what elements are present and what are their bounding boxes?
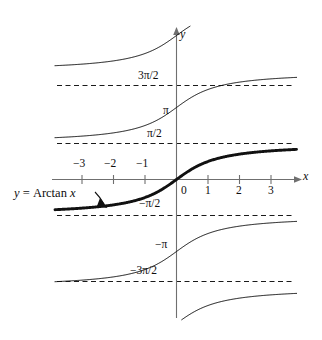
y-label-neg-pi: −π	[155, 239, 167, 251]
figure-background	[0, 0, 322, 340]
y-label-3pi-over-2: 3π/2	[138, 70, 159, 82]
x-tick-label-0: 0	[181, 185, 187, 197]
y-label-pi-over-2: π/2	[147, 128, 162, 140]
y-label-neg-pi-over-2: −π/2	[139, 198, 160, 210]
x-tick-label-neg1: −1	[136, 158, 148, 170]
x-tick-label-1: 1	[205, 185, 211, 197]
x-tick-label-2: 2	[236, 185, 242, 197]
arctan-annotation: y = Arctan x	[14, 187, 76, 200]
y-label-pi: π	[163, 105, 169, 117]
y-axis-label: y	[180, 28, 185, 40]
x-tick-label-3: 3	[268, 185, 274, 197]
annotation-equals: =	[23, 186, 30, 200]
y-label-neg-3pi-over-2: −3π/2	[130, 265, 157, 277]
annotation-function-name: Arctan	[33, 186, 67, 200]
x-axis-label: x	[303, 170, 308, 182]
arctan-branches-figure	[0, 0, 322, 340]
annotation-y: y	[14, 186, 20, 200]
annotation-argument: x	[70, 186, 76, 200]
x-tick-label-neg2: −2	[104, 158, 116, 170]
x-tick-label-neg3: −3	[73, 158, 85, 170]
